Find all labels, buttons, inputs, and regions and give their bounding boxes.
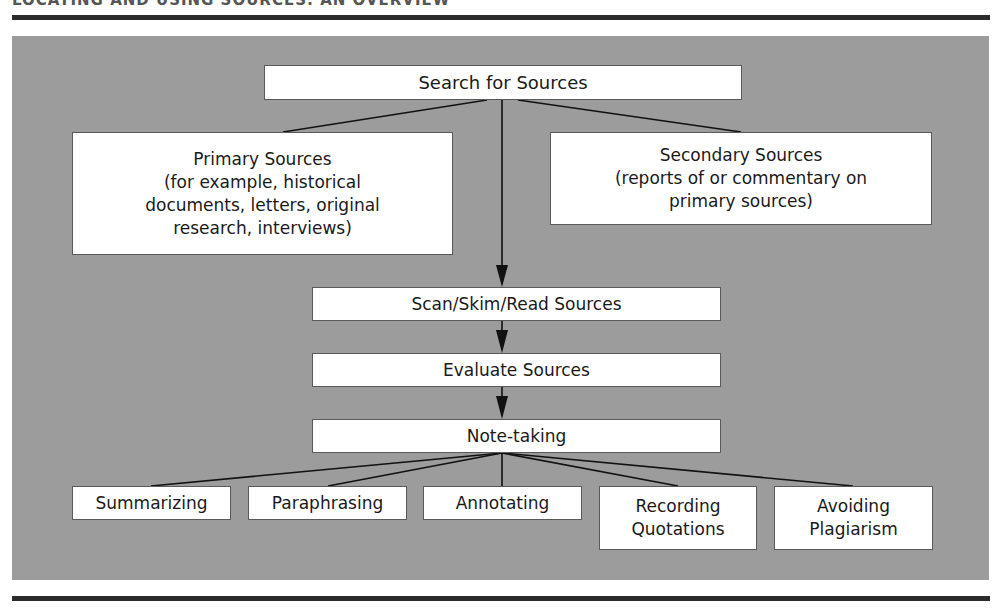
node-paraphrasing: Paraphrasing xyxy=(248,486,407,520)
line-notetaking-to-avoiding xyxy=(502,453,853,486)
line-notetaking-to-summarizing xyxy=(151,453,502,486)
node-label: Secondary Sources (reports of or comment… xyxy=(615,144,867,213)
arrow-down-icon xyxy=(496,330,508,353)
node-label: Summarizing xyxy=(95,492,207,515)
line-search-to-primary xyxy=(283,100,487,132)
node-label: Note-taking xyxy=(467,425,567,448)
line-notetaking-to-recording xyxy=(502,453,678,486)
node-label: Evaluate Sources xyxy=(443,359,590,382)
node-label: Paraphrasing xyxy=(272,492,383,515)
node-label: Recording Quotations xyxy=(631,495,724,541)
arrow-down-icon xyxy=(496,396,508,419)
node-label: Avoiding Plagiarism xyxy=(809,495,897,541)
node-evaluate-sources: Evaluate Sources xyxy=(312,353,721,387)
bottom-rule xyxy=(12,596,990,601)
node-avoiding-plagiarism: Avoiding Plagiarism xyxy=(774,486,933,550)
node-label: Scan/Skim/Read Sources xyxy=(411,293,621,316)
line-search-to-secondary xyxy=(518,100,741,132)
node-annotating: Annotating xyxy=(423,486,582,520)
node-recording-quotations: Recording Quotations xyxy=(599,486,757,550)
node-primary-sources: Primary Sources (for example, historical… xyxy=(72,132,453,255)
line-notetaking-to-paraphrasing xyxy=(328,453,502,486)
node-note-taking: Note-taking xyxy=(312,419,721,453)
node-secondary-sources: Secondary Sources (reports of or comment… xyxy=(550,132,932,225)
node-search-for-sources: Search for Sources xyxy=(264,65,742,100)
node-label: Search for Sources xyxy=(418,71,587,94)
node-scan-skim-read: Scan/Skim/Read Sources xyxy=(312,287,721,321)
node-summarizing: Summarizing xyxy=(72,486,231,520)
node-label: Annotating xyxy=(456,492,550,515)
node-label: Primary Sources (for example, historical… xyxy=(145,148,380,240)
arrow-down-icon xyxy=(496,265,508,287)
